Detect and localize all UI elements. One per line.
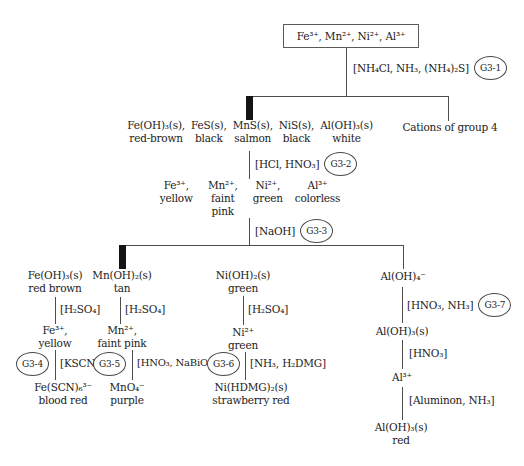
compound-formula: Fe(OH)₃(s) [28,269,83,282]
precipitate-item: FeS(s), black [191,119,227,145]
ion-list: Fe³⁺, yellow Mn²⁺, faint pink Ni²⁺, gree… [160,179,340,217]
precipitate-item: NiS(s), black [279,119,314,145]
branch1-horizontal-line [249,96,449,97]
compound-color: purple [110,394,145,407]
step-tag-g3-2: G3-2 [324,152,357,176]
mn-stem-line-1 [120,297,121,324]
ion-formula: Ni²⁺, [253,179,283,192]
root-cations-box: Fe³⁺, Mn²⁺, Ni²⁺, Al³⁺ [283,24,419,48]
ion-item: Mn²⁺, faint pink [205,179,241,217]
group4-cations-node: Cations of group 4 [402,121,497,134]
precipitate-list: Fe(OH)₃(s), red-brown FeS(s), black MnS(… [127,119,373,145]
mn-h2so4-label: [H₂SO₄] [125,303,165,315]
compound-formula: Al(OH)₃(s) [320,119,373,132]
step-g3-1-row: [NH₄Cl, NH₃, (NH₄)₂S] G3-1 [353,56,507,80]
al-stem-line-3 [402,387,403,420]
compound-color: tan [92,282,151,295]
ni-stem-line-2 [245,352,246,380]
ion-formula: Fe³⁺, [39,324,72,337]
step-tag-g3-6: G3-6 [207,352,240,376]
root-stem-line [346,47,347,96]
compound-formula: MnS(s), [233,119,273,132]
al-hydroxide-node: Al(OH)₃(s) [376,325,429,338]
reagent-label-g3-1: [NH₄Cl, NH₃, (NH₄)₂S] [353,62,469,74]
ni-product-node: Ni(HDMG)₂(s) strawberry red [212,381,289,407]
ni-hydroxide-node: Ni(OH)₂(s) green [216,269,270,295]
ion-formula: Mn²⁺, [205,179,241,192]
reagent-label-g3-2: [HCl, HNO₃] [255,158,319,170]
ion-formula: Al³⁺ [295,179,340,192]
compound-color: red [375,434,428,447]
branch2-horizontal-line [122,245,404,246]
group3-analysis-flowchart: Fe³⁺, Mn²⁺, Ni²⁺, Al³⁺ [NH₄Cl, NH₃, (NH₄… [0,0,524,466]
fe-stem-line-2 [55,350,56,380]
ion-color: yellow [160,192,193,205]
step-g3-3-row: [NaOH] G3-3 [255,219,333,243]
ion-item: Fe³⁺, yellow [160,179,193,205]
step-tag-g3-3: G3-3 [300,219,333,243]
reagent-label-g3-3: [NaOH] [255,225,295,237]
ion-item: Al³⁺ colorless [295,179,340,205]
compound-formula: Mn(OH)₂(s) [92,269,151,282]
al-final-node: Al(OH)₃(s) red [375,421,428,447]
compound-color: salmon [233,132,273,145]
compound-formula: Fe(OH)₃(s), [127,119,185,132]
fe-hydroxide-node: Fe(OH)₃(s) red brown [28,269,83,295]
ion-color: colorless [295,192,340,205]
reagent-label-g3-6: [NH₃, H₂DMG] [250,357,326,369]
ni-stem-line-1 [243,296,244,325]
precipitate-item: Fe(OH)₃(s), red-brown [127,119,185,145]
step-tag-g3-1: G3-1 [474,56,507,80]
al-ion-node: Al³⁺ [392,371,412,384]
compound-formula: Fe(SCN)₆³⁻ [34,381,92,394]
compound-color: strawberry red [212,394,289,407]
branch2-right-line [403,246,404,269]
al-complex-node: Al(OH)₄⁻ [380,270,425,283]
branch2-precipitate-bar [119,245,126,269]
ion-color: yellow [39,337,72,350]
al-stem-line-1 [402,287,403,323]
compound-formula: Al(OH)₃(s) [375,421,428,434]
fe-h2so4-label: [H₂SO₄] [60,303,100,315]
al-stem-line-2 [402,340,403,369]
mn-ion-node: Mn²⁺, faint pink [97,324,146,350]
precipitate-item: Al(OH)₃(s) white [320,119,373,145]
compound-color: white [320,132,373,145]
reagent-label-g3-7: [HNO₃, NH₃] [407,299,473,311]
compound-formula: Al(OH)₄⁻ [380,270,425,283]
fe-product-node: Fe(SCN)₆³⁻ blood red [34,381,92,407]
compound-formula: Ni(OH)₂(s) [216,269,270,282]
ion-formula: Ni²⁺ [228,326,258,339]
compound-formula: NiS(s), [279,119,314,132]
naoh-stem-line [249,218,250,246]
precipitate-item: MnS(s), salmon [233,119,273,145]
fe-stem-line-1 [55,297,56,324]
mn-stem-line-2 [132,350,133,380]
ion-formula: Fe³⁺, [160,179,193,192]
root-cations-label: Fe³⁺, Mn²⁺, Ni²⁺, Al³⁺ [297,30,406,42]
ni-ion-node: Ni²⁺ green [228,326,258,352]
step-tag-g3-4: G3-4 [16,352,49,376]
group4-label: Cations of group 4 [402,121,497,134]
compound-formula: MnO₄⁻ [110,381,145,394]
compound-color: green [216,282,270,295]
step-g3-2-row: [HCl, HNO₃] G3-2 [255,152,357,176]
ion-item: Ni²⁺, green [253,179,283,205]
al-aluminon-label: [Aluminon, NH₃] [409,394,494,406]
branch1-right-line [448,97,449,121]
ion-color: faint pink [205,192,241,218]
hcl-stem-line [249,151,250,179]
step-tag-g3-5: G3-5 [93,352,126,376]
ion-color: faint pink [97,337,146,350]
compound-color: red-brown [127,132,185,145]
ion-color: green [253,192,283,205]
step-tag-g3-7: G3-7 [478,293,511,317]
ion-color: green [228,339,258,352]
ion-formula: Mn²⁺, [97,324,146,337]
fe-ion-node: Fe³⁺, yellow [39,324,72,350]
step-g3-7-row: [HNO₃, NH₃] G3-7 [407,293,511,317]
compound-formula: Ni(HDMG)₂(s) [212,381,289,394]
al-hno3-label: [HNO₃] [409,347,447,359]
compound-formula: Al(OH)₃(s) [376,325,429,338]
compound-formula: FeS(s), [191,119,227,132]
